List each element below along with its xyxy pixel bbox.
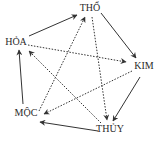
node-kim-label: KIM [134,61,153,71]
node-hoa-label: HỎA [5,37,27,47]
arrow-thuy-to-hoa [29,51,101,123]
arrow-moc-to-tho [39,17,85,111]
five-elements-diagram: THỔ KIM THỦY MỘC HỎA [0,0,156,142]
arrow-thuy-to-moc [40,122,98,131]
arrow-hoa-to-kim [28,45,126,62]
arrow-tho-to-thuy [92,17,107,120]
node-moc-label: MỘC [15,108,38,118]
arrow-kim-to-thuy [113,77,140,121]
arrow-hoa-to-tho [29,15,77,36]
arrow-tho-to-kim [101,13,136,58]
arrow-kim-to-moc [44,71,132,114]
arrows-layer [0,0,156,142]
node-tho-label: THỔ [80,3,101,13]
node-thuy-label: THỦY [96,124,124,134]
arrow-moc-to-hoa [19,50,23,104]
